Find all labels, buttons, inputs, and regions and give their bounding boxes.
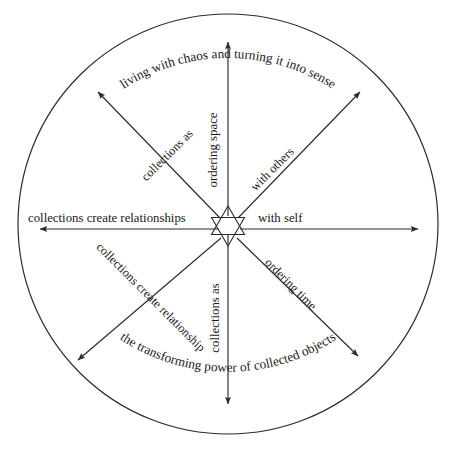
axis-label-down: collections as bbox=[208, 283, 222, 352]
collections-circle-diagram: living with chaos and turning it into se… bbox=[0, 0, 456, 460]
axis-label-right: with self bbox=[258, 211, 303, 225]
axis-label-up: ordering space bbox=[206, 112, 220, 187]
axis-label-upper-right: with others bbox=[248, 145, 297, 194]
axis-label-lower-right: ordering time bbox=[262, 255, 320, 313]
diagram-canvas: living with chaos and turning it into se… bbox=[0, 0, 456, 460]
axis-label-lower-left: collections create relationship bbox=[94, 240, 209, 355]
axis-label-left: collections create relationships bbox=[28, 211, 186, 225]
axis-label-upper-left: collections as bbox=[138, 126, 195, 183]
arrow-upper-right bbox=[238, 92, 360, 218]
